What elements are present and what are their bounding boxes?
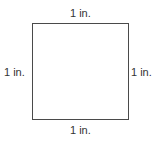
square-shape	[32, 23, 129, 120]
top-side-label: 1 in.	[70, 7, 91, 19]
left-side-label: 1 in.	[4, 66, 25, 78]
right-side-label: 1 in.	[131, 66, 152, 78]
bottom-side-label: 1 in.	[70, 124, 91, 136]
